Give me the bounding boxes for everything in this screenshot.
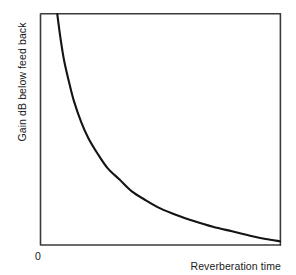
gain-vs-reverberation-time-figure: Gain dB below feed back Reverberation ti… [0, 0, 296, 275]
decay-curve [57, 14, 280, 241]
chart-screenshot: Gain dB below feed back Reverberation ti… [0, 0, 296, 275]
x-axis-label: Reverberation time [190, 261, 281, 272]
axis-frame [41, 14, 282, 246]
plot-area [0, 0, 296, 275]
origin-tick-label: 0 [35, 251, 41, 262]
y-axis-label: Gain dB below feed back [17, 22, 28, 141]
